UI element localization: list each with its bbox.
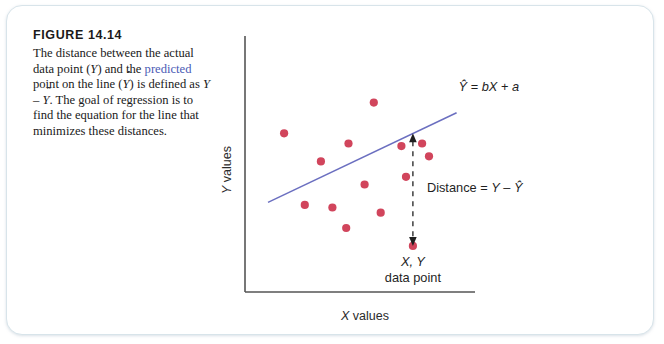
distance-label: Distance = Y – Ŷ (427, 180, 524, 195)
data-point-label-line1: X, Y (400, 254, 426, 269)
data-point (377, 209, 385, 217)
data-point (301, 201, 309, 209)
figure-title: FIGURE 14.14 (33, 28, 213, 42)
data-point (370, 98, 378, 106)
regression-equation-label: Ŷ = bX + a (459, 79, 520, 94)
scatter-plot: Y values X values Ŷ = bX + a Distance = … (217, 20, 647, 326)
data-point (344, 139, 352, 147)
data-point (342, 224, 350, 232)
scatter-points (280, 98, 433, 250)
caption-highlight-word: predicted (145, 62, 192, 76)
residual-indicator (409, 133, 417, 246)
x-axis-label: X values (340, 309, 389, 323)
y-axis-label: Y values (220, 146, 234, 194)
data-point (280, 129, 288, 137)
data-point (402, 173, 410, 181)
data-point (328, 203, 336, 211)
data-point (361, 180, 369, 188)
data-point-label-line2: data point (385, 270, 442, 285)
data-point (397, 142, 405, 150)
data-point (418, 139, 426, 147)
plot-axes (245, 36, 475, 292)
figure-caption: The distance between the actual data poi… (33, 46, 213, 140)
caption-block: FIGURE 14.14 The distance between the ac… (33, 28, 213, 140)
data-point (317, 157, 325, 165)
figure-card: FIGURE 14.14 The distance between the ac… (6, 5, 654, 335)
data-point (425, 152, 433, 160)
